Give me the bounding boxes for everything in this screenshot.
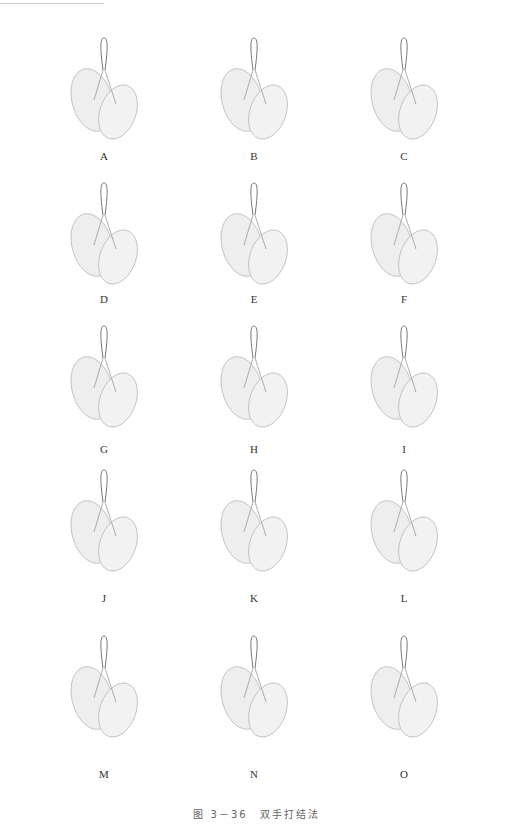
hands-tying-knot-icon: [54, 175, 154, 293]
panel-label: M: [34, 768, 174, 780]
figure-panel: J: [34, 462, 174, 612]
panel-label: C: [334, 150, 474, 162]
figure-panel: N: [184, 628, 324, 778]
hands-tying-knot-icon: [204, 628, 304, 746]
hands-tying-knot-icon: [354, 175, 454, 293]
panel-label: L: [334, 592, 474, 604]
figure-panel: A: [34, 30, 174, 180]
panel-label: F: [334, 293, 474, 305]
figure-panel: F: [334, 175, 474, 325]
panel-label: D: [34, 293, 174, 305]
panel-label: J: [34, 592, 174, 604]
figure-panel: M: [34, 628, 174, 778]
hands-tying-knot-icon: [354, 318, 454, 436]
figure-panel: G: [34, 318, 174, 468]
panel-label: G: [34, 443, 174, 455]
figure-panel: C: [334, 30, 474, 180]
figure-panel: I: [334, 318, 474, 468]
hands-tying-knot-icon: [54, 462, 154, 580]
hands-tying-knot-icon: [54, 30, 154, 148]
figure-panel: L: [334, 462, 474, 612]
panel-label: O: [334, 768, 474, 780]
panel-label: I: [334, 443, 474, 455]
panel-label: H: [184, 443, 324, 455]
figure-caption: 图 3－36 双手打结法: [0, 806, 513, 821]
figure-panel: H: [184, 318, 324, 468]
figure-panel: K: [184, 462, 324, 612]
panel-label: E: [184, 293, 324, 305]
hands-tying-knot-icon: [54, 318, 154, 436]
panel-label: K: [184, 592, 324, 604]
figure-panel: E: [184, 175, 324, 325]
panel-label: N: [184, 768, 324, 780]
hands-tying-knot-icon: [354, 628, 454, 746]
hands-tying-knot-icon: [204, 175, 304, 293]
panel-label: A: [34, 150, 174, 162]
hands-tying-knot-icon: [204, 30, 304, 148]
figure-panel: B: [184, 30, 324, 180]
hands-tying-knot-icon: [204, 462, 304, 580]
hands-tying-knot-icon: [354, 462, 454, 580]
hands-tying-knot-icon: [54, 628, 154, 746]
figure-panel: O: [334, 628, 474, 778]
panel-label: B: [184, 150, 324, 162]
hands-tying-knot-icon: [204, 318, 304, 436]
header-rule: [0, 3, 104, 4]
hands-tying-knot-icon: [354, 30, 454, 148]
figure-panel: D: [34, 175, 174, 325]
